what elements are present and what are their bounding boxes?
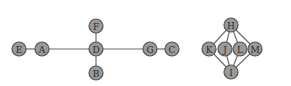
- node-label: F: [93, 22, 99, 32]
- node-g: G: [143, 42, 157, 56]
- node-d: D: [89, 42, 103, 56]
- node-h: H: [224, 18, 238, 32]
- node-label: C: [169, 45, 176, 55]
- graph-diagram: EADFBGCHKJLMI: [0, 0, 291, 86]
- node-label: L: [237, 45, 243, 55]
- node-m: M: [248, 42, 262, 56]
- node-j: J: [218, 42, 232, 56]
- node-label: M: [250, 45, 259, 55]
- node-label: E: [16, 45, 23, 55]
- node-i: I: [224, 65, 238, 79]
- node-label: J: [222, 45, 227, 55]
- node-c: C: [165, 42, 179, 56]
- node-b: B: [89, 66, 103, 80]
- node-label: H: [227, 21, 235, 31]
- graph-canvas: EADFBGCHKJLMI: [0, 0, 291, 86]
- node-l: L: [233, 42, 247, 56]
- node-e: E: [12, 42, 26, 56]
- node-k: K: [202, 42, 216, 56]
- node-label: I: [229, 68, 233, 78]
- node-label: D: [92, 45, 99, 55]
- node-a: A: [35, 42, 49, 56]
- node-label: G: [146, 45, 153, 55]
- node-label: K: [206, 45, 213, 55]
- node-label: B: [93, 69, 100, 79]
- node-label: A: [38, 45, 46, 55]
- node-f: F: [89, 19, 103, 33]
